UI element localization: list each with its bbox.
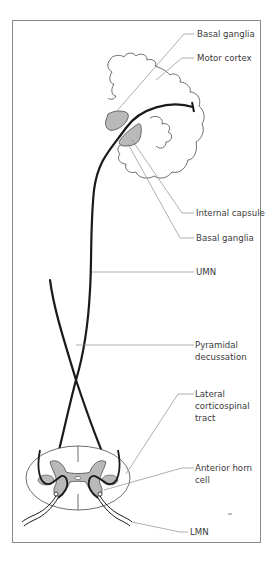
brain-sulcus	[150, 116, 172, 148]
label-anterior-horn-1: Anterior horn	[195, 462, 252, 474]
label-umn: UMN	[196, 266, 216, 278]
anterior-horn-cell-right	[98, 492, 102, 496]
leader-lateral-corticospinal	[126, 394, 194, 474]
umn-terminal-tick	[192, 102, 194, 112]
label-lmn: LMN	[190, 526, 209, 538]
central-canal	[75, 476, 81, 479]
leader-internal-capsule	[132, 140, 194, 213]
basal-ganglia-lower-shape	[119, 124, 141, 146]
anterior-horn-cell-left	[54, 492, 58, 496]
motor-pathway-diagram	[0, 0, 275, 561]
leader-basal-ganglia-top	[116, 34, 194, 112]
basal-ganglia-upper-shape	[105, 111, 128, 130]
label-lateral-corticospinal-1: Lateral	[195, 388, 225, 400]
label-basal-ganglia-bottom: Basal ganglia	[196, 232, 254, 244]
label-basal-ganglia-top: Basal ganglia	[197, 28, 255, 40]
leader-basal-ganglia-bottom	[128, 144, 194, 238]
label-pyramidal-decussation-2: decussation	[195, 351, 247, 363]
label-lateral-corticospinal-3: tract	[195, 412, 215, 424]
label-internal-capsule: Internal capsule	[196, 207, 265, 219]
lmn-root-left	[22, 496, 58, 526]
brain-cortex-upper	[108, 60, 116, 99]
label-motor-cortex: Motor cortex	[197, 52, 252, 64]
label-pyramidal-decussation-1: Pyramidal	[195, 339, 238, 351]
label-anterior-horn-2: cell	[195, 474, 210, 486]
leader-lmn	[132, 522, 188, 532]
label-lateral-corticospinal-2: corticospinal	[195, 400, 250, 412]
